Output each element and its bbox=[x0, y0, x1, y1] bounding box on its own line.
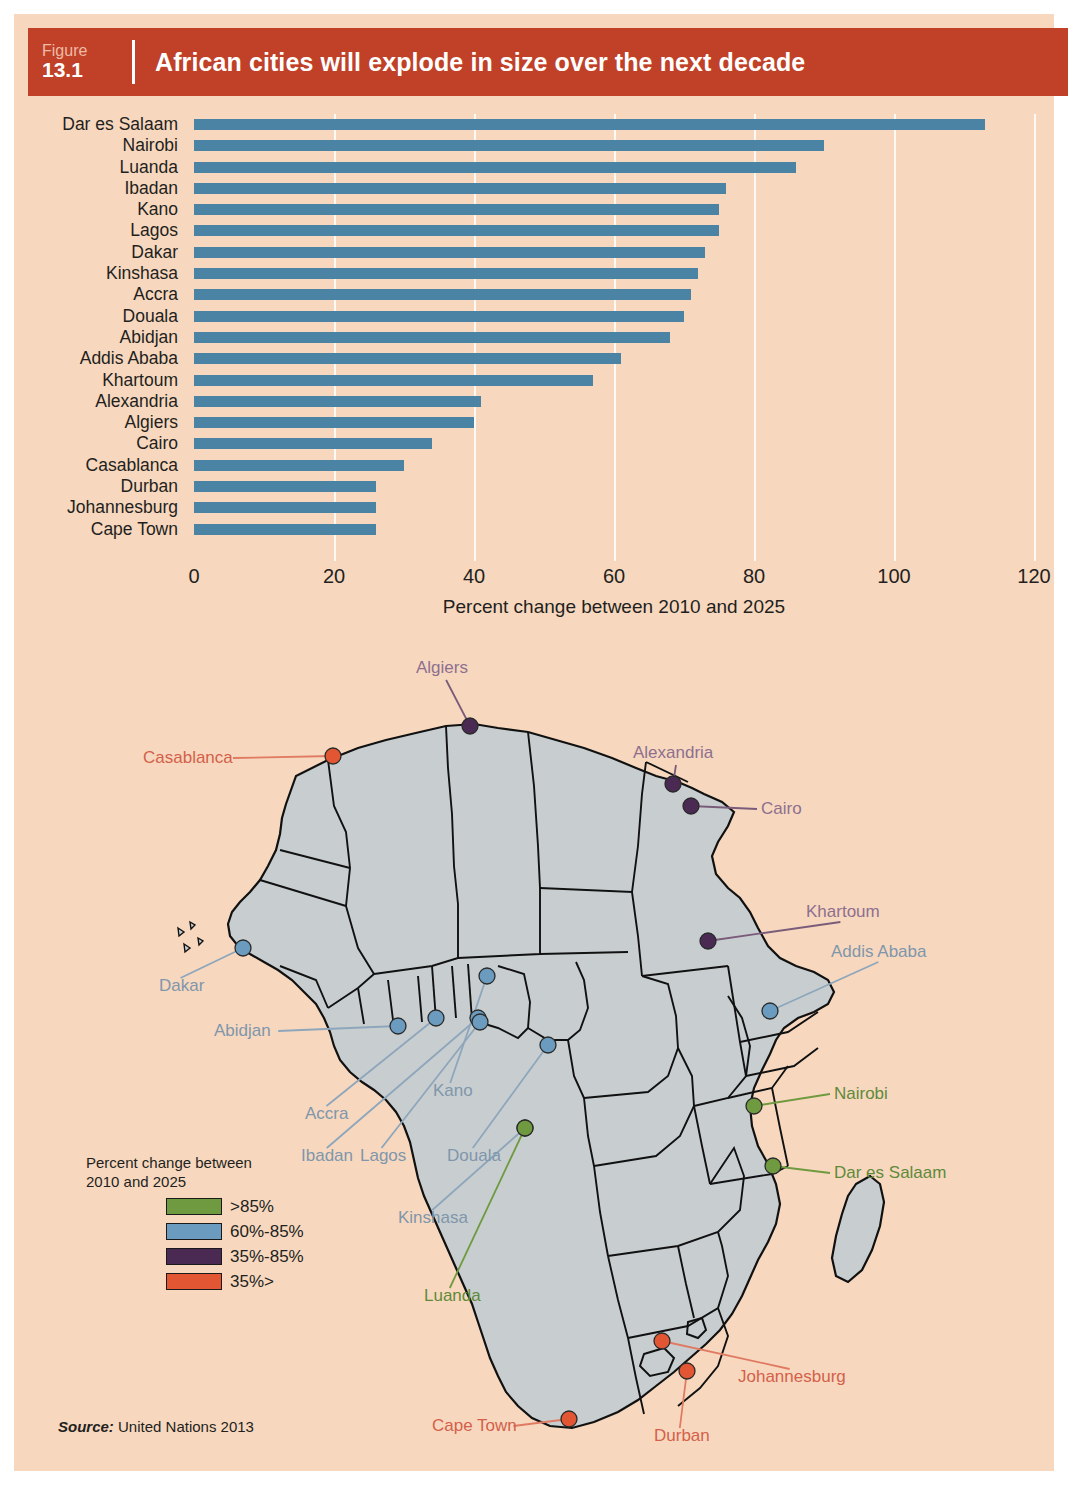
bar-row bbox=[194, 284, 1034, 305]
map-city-label: Nairobi bbox=[834, 1084, 888, 1104]
category-label: Cape Town bbox=[28, 519, 186, 540]
map-city-label: Durban bbox=[654, 1426, 710, 1446]
bar bbox=[194, 268, 698, 279]
bar bbox=[194, 524, 376, 535]
map-city-label: Addis Ababa bbox=[831, 942, 926, 962]
map-city-label: Abidjan bbox=[214, 1021, 271, 1041]
map-city-dot[interactable] bbox=[428, 1010, 444, 1026]
map-city-label: Dakar bbox=[159, 976, 204, 996]
map-city-dot[interactable] bbox=[462, 718, 478, 734]
bar bbox=[194, 438, 432, 449]
map-city-label: Luanda bbox=[424, 1286, 481, 1306]
map-city-label: Cairo bbox=[761, 799, 802, 819]
tick-label: 60 bbox=[603, 565, 625, 588]
legend-label: 35%-85% bbox=[230, 1247, 304, 1267]
bar bbox=[194, 396, 481, 407]
figure-word: Figure bbox=[42, 42, 130, 59]
map-city-dot[interactable] bbox=[683, 798, 699, 814]
category-label: Alexandria bbox=[28, 391, 186, 412]
legend-swatch bbox=[166, 1273, 222, 1290]
bar-row bbox=[194, 348, 1034, 369]
bar-row bbox=[194, 220, 1034, 241]
figure-number: 13.1 bbox=[42, 59, 130, 82]
map-city-dot[interactable] bbox=[472, 1014, 488, 1030]
category-label: Casablanca bbox=[28, 455, 186, 476]
map-city-label: Algiers bbox=[416, 658, 468, 678]
legend-items: >85%60%-85%35%-85%35%> bbox=[86, 1197, 336, 1292]
tick-label: 20 bbox=[323, 565, 345, 588]
bar bbox=[194, 140, 824, 151]
figure-header: Figure 13.1 African cities will explode … bbox=[28, 28, 1068, 96]
bar bbox=[194, 481, 376, 492]
legend-item: 35%> bbox=[86, 1272, 336, 1292]
bar-row bbox=[194, 476, 1034, 497]
bar-row bbox=[194, 391, 1034, 412]
bar bbox=[194, 353, 621, 364]
map-leader-line bbox=[233, 756, 333, 758]
tick-label: 120 bbox=[1017, 565, 1050, 588]
map-city-label: Dar es Salaam bbox=[834, 1163, 946, 1183]
category-label: Abidjan bbox=[28, 327, 186, 348]
bar bbox=[194, 460, 404, 471]
map-city-dot[interactable] bbox=[746, 1098, 762, 1114]
axis-title: Percent change between 2010 and 2025 bbox=[194, 596, 1034, 618]
bar-row bbox=[194, 263, 1034, 284]
legend-item: 60%-85% bbox=[86, 1222, 336, 1242]
category-label: Dakar bbox=[28, 242, 186, 263]
map-city-label: Lagos bbox=[360, 1146, 406, 1166]
map-city-dot[interactable] bbox=[517, 1120, 533, 1136]
figure-title: African cities will explode in size over… bbox=[155, 48, 805, 77]
map-city-dot[interactable] bbox=[235, 940, 251, 956]
bar bbox=[194, 502, 376, 513]
legend-item: 35%-85% bbox=[86, 1247, 336, 1267]
legend-title-line2: 2010 and 2025 bbox=[86, 1173, 336, 1192]
legend-label: >85% bbox=[230, 1197, 274, 1217]
map-city-dot[interactable] bbox=[654, 1333, 670, 1349]
map-city-dot[interactable] bbox=[665, 776, 681, 792]
legend-item: >85% bbox=[86, 1197, 336, 1217]
category-label: Nairobi bbox=[28, 135, 186, 156]
bar-row bbox=[194, 433, 1034, 454]
bar bbox=[194, 247, 705, 258]
bar-row bbox=[194, 519, 1034, 540]
category-label: Kinshasa bbox=[28, 263, 186, 284]
map-legend: Percent change between 2010 and 2025 >85… bbox=[86, 1154, 336, 1292]
map-city-dot[interactable] bbox=[700, 933, 716, 949]
bar bbox=[194, 225, 719, 236]
category-label: Lagos bbox=[28, 220, 186, 241]
map-city-dot[interactable] bbox=[561, 1411, 577, 1427]
category-label: Cairo bbox=[28, 433, 186, 454]
tick-label: 0 bbox=[188, 565, 199, 588]
bar-row bbox=[194, 157, 1034, 178]
bar-row bbox=[194, 412, 1034, 433]
bar-row bbox=[194, 455, 1034, 476]
map-city-dot[interactable] bbox=[540, 1037, 556, 1053]
category-axis-labels: Dar es SalaamNairobiLuandaIbadanKanoLago… bbox=[28, 114, 186, 540]
map-city-label: Casablanca bbox=[143, 748, 233, 768]
legend-swatch bbox=[166, 1198, 222, 1215]
source-note: Source: United Nations 2013 bbox=[58, 1418, 254, 1435]
bar bbox=[194, 162, 796, 173]
bar bbox=[194, 183, 726, 194]
map-city-dot[interactable] bbox=[679, 1363, 695, 1379]
bar bbox=[194, 332, 670, 343]
map-city-dot[interactable] bbox=[762, 1003, 778, 1019]
bar-row bbox=[194, 135, 1034, 156]
tick-label: 40 bbox=[463, 565, 485, 588]
figure-number-block: Figure 13.1 bbox=[28, 42, 130, 82]
category-label: Dar es Salaam bbox=[28, 114, 186, 135]
map-city-label: Accra bbox=[305, 1104, 348, 1124]
map-landmass bbox=[178, 724, 884, 1428]
category-label: Douala bbox=[28, 306, 186, 327]
bar-row bbox=[194, 242, 1034, 263]
map-city-label: Johannesburg bbox=[738, 1367, 846, 1387]
map-city-dot[interactable] bbox=[390, 1018, 406, 1034]
bar-row bbox=[194, 370, 1034, 391]
map-city-label: Alexandria bbox=[633, 743, 713, 763]
map-city-dot[interactable] bbox=[325, 748, 341, 764]
bar-row bbox=[194, 327, 1034, 348]
bar-chart: Dar es SalaamNairobiLuandaIbadanKanoLago… bbox=[28, 100, 1068, 630]
map-city-dot[interactable] bbox=[479, 968, 495, 984]
category-label: Ibadan bbox=[28, 178, 186, 199]
map-city-dot[interactable] bbox=[765, 1158, 781, 1174]
